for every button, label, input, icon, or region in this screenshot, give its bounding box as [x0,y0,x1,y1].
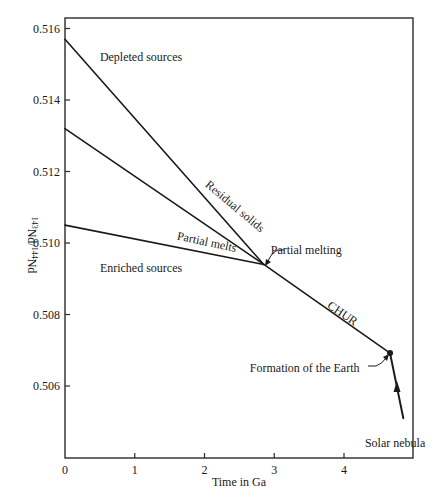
annotation-label: Depleted sources [100,50,183,64]
y-tick-label: 0.508 [33,308,60,322]
y-tick-label: 0.512 [33,165,60,179]
y-tick-label: 0.514 [33,93,60,107]
y-axis-label: 143Nd/144Nd [25,217,39,274]
annotation-label: Partial melts [176,229,238,255]
earth-formation-arrowhead [383,354,389,361]
annotation-label: CHUR [325,298,360,328]
x-tick-label: 3 [271,463,277,477]
x-axis-ticks: 01234 [62,453,347,477]
annotation-label: Enriched sources [100,261,183,275]
annotations: Depleted sourcesEnriched sourcesResidual… [100,50,426,450]
earth-formation-leader [368,358,386,366]
solar-nebula-arrowhead [394,381,401,392]
x-tick-label: 4 [341,463,347,477]
x-axis-label: Time in Ga [212,475,267,489]
plot-frame [65,18,413,458]
y-tick-label: 0.516 [33,22,60,36]
annotation-label: Solar nebula [365,436,426,450]
y-tick-label: 0.506 [33,379,60,393]
nd-isotope-evolution-chart: 0.5060.5080.5100.5120.5140.516 01234 Dep… [0,0,434,504]
x-tick-label: 2 [202,463,208,477]
plot-svg: 0.5060.5080.5100.5120.5140.516 01234 Dep… [0,0,434,504]
x-tick-label: 1 [132,463,138,477]
x-tick-label: 0 [62,463,68,477]
annotation-label: Formation of the Earth [250,361,360,375]
